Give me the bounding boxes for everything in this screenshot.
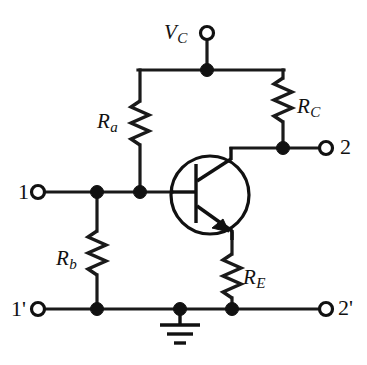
npn-transistor-symbol <box>171 147 249 240</box>
transistor-envelope-circle <box>171 156 249 234</box>
node-supply <box>201 64 214 77</box>
resistor-rc-body <box>274 78 292 122</box>
resistor-rb-body <box>88 231 106 275</box>
node-emitter-bottom <box>226 303 239 316</box>
label-terminal-2: 2 <box>340 136 351 158</box>
label-supply-vc: VC <box>164 22 187 46</box>
label-terminal-1: 1 <box>18 181 29 203</box>
terminal-2-port[interactable] <box>320 142 333 155</box>
transistor-emitter-arrow <box>212 219 229 232</box>
node-collector <box>277 142 290 155</box>
label-terminal-2-prime: 2' <box>338 297 353 319</box>
terminal-vc-port[interactable] <box>201 27 214 40</box>
transistor-collector-lead <box>197 159 231 181</box>
label-terminal-1-prime: 1' <box>11 298 26 320</box>
label-resistor-rb: Rb <box>56 248 77 272</box>
terminal-2-prime-port[interactable] <box>320 303 333 316</box>
terminal-1-prime-port[interactable] <box>32 303 45 316</box>
circuit-svg <box>0 0 367 365</box>
label-resistor-ra: Ra <box>97 111 118 135</box>
node-ground <box>174 303 187 316</box>
circuit-diagram: VC Ra RC Rb RE 1 1' 2 2' <box>0 0 367 365</box>
node-base-right <box>134 186 147 199</box>
resistor-re-body <box>223 254 241 298</box>
label-resistor-re: RE <box>243 267 265 291</box>
label-resistor-rc: RC <box>297 96 320 120</box>
node-base-left <box>91 186 104 199</box>
resistor-ra-body <box>131 101 149 145</box>
node-bottom-left <box>91 303 104 316</box>
terminal-1-port[interactable] <box>32 186 45 199</box>
